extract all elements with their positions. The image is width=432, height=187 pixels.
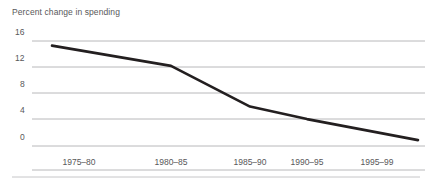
x-axis-tick-label-1980-85: 1980–85 (138, 157, 204, 167)
gridlines (32, 41, 425, 170)
y-axis-tick-label-8: 8 (20, 79, 25, 89)
y-axis-tick-label-0: 0 (20, 132, 25, 142)
y-axis-tick-label-4: 4 (20, 105, 25, 115)
x-axis-tick-label-1995-99: 1995–99 (344, 157, 410, 167)
y-axis-tick-label-12: 12 (15, 53, 24, 63)
y-axis-tick-label-16: 16 (15, 27, 24, 37)
x-axis-tick-label-1990-95: 1990–95 (274, 157, 340, 167)
x-axis-tick-label-1975-80: 1975–80 (46, 157, 112, 167)
chart-container: Percent change in spending 16 12 8 4 0 1… (0, 0, 432, 187)
